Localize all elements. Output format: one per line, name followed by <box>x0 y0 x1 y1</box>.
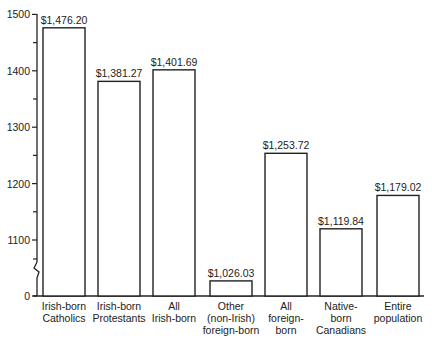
category-label: Protestants <box>92 312 145 324</box>
bar-group: $1,401.69AllIrish-born <box>151 56 198 324</box>
category-label: population <box>374 312 423 324</box>
category-label: born <box>330 312 351 324</box>
bar <box>43 28 85 296</box>
category-label: Other <box>218 300 245 312</box>
axis-break-icon <box>34 262 39 278</box>
category-label: All <box>168 300 180 312</box>
bar <box>320 229 362 296</box>
bar-group: $1,476.20Irish-bornCatholics <box>41 14 88 324</box>
bar-value-label: $1,253.72 <box>263 139 310 151</box>
category-label: foreign-born <box>203 324 260 336</box>
bar-value-label: $1,476.20 <box>41 14 88 26</box>
y-tick-label: 1400 <box>7 65 31 77</box>
bar-group: $1,381.27Irish-bornProtestants <box>92 67 145 324</box>
category-label: born <box>275 324 296 336</box>
bar-value-label: $1,026.03 <box>208 267 255 279</box>
category-label: foreign- <box>268 312 304 324</box>
bar <box>377 195 419 296</box>
category-label: Irish-born <box>97 300 142 312</box>
y-tick-label: 1200 <box>7 178 31 190</box>
bar-group: $1,253.72Allforeign-born <box>263 139 310 336</box>
bar <box>153 70 195 296</box>
category-label: Irish-born <box>152 312 197 324</box>
bar <box>265 153 307 296</box>
y-tick-label: 1500 <box>7 8 31 20</box>
y-tick-label: 1300 <box>7 121 31 133</box>
bar-chart: 150014001300120011000$1,476.20Irish-born… <box>0 0 432 348</box>
category-label: Native- <box>324 300 358 312</box>
bar <box>210 281 252 296</box>
category-label: Entire <box>384 300 412 312</box>
bar-value-label: $1,119.84 <box>318 215 364 227</box>
category-label: Canadians <box>316 324 366 336</box>
y-tick-label: 1100 <box>7 234 30 246</box>
bar-group: $1,026.03Other(non-Irish)foreign-born <box>203 267 260 336</box>
category-label: Catholics <box>42 312 85 324</box>
bar <box>98 81 140 296</box>
y-tick-label: 0 <box>24 290 30 302</box>
category-label: Irish-born <box>42 300 87 312</box>
bar-group: $1,179.02Entirepopulation <box>374 181 423 324</box>
bar-value-label: $1,401.69 <box>151 56 198 68</box>
category-label: All <box>280 300 292 312</box>
category-label: (non-Irish) <box>207 312 255 324</box>
bar-value-label: $1,381.27 <box>96 67 143 79</box>
bar-group: $1,119.84Native-bornCanadians <box>316 215 366 336</box>
y-axis: 150014001300120011000 <box>7 8 39 302</box>
bar-value-label: $1,179.02 <box>375 181 422 193</box>
